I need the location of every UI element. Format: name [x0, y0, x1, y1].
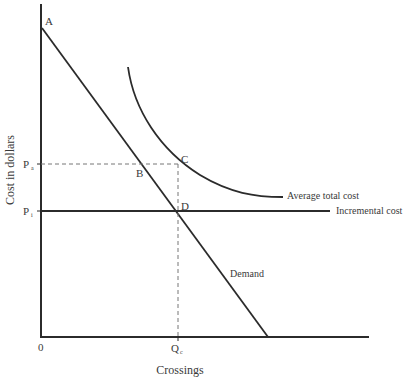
svg-text:P: P [23, 205, 29, 217]
svg-text:P: P [23, 158, 29, 170]
origin-label: 0 [38, 341, 44, 353]
price-a-label: P a [23, 158, 34, 171]
x-axis-label: Crossings [156, 363, 204, 377]
point-a-label: A [45, 15, 53, 27]
demand-line [42, 28, 268, 337]
cost-diagram: A B C D P a P i Q c 0 Average total cost… [0, 0, 416, 380]
incremental-cost-label: Incremental cost [336, 205, 403, 216]
svg-text:Q: Q [171, 342, 179, 354]
point-b-label: B [136, 167, 143, 179]
demand-label: Demand [230, 268, 264, 279]
point-c-label: C [181, 153, 188, 165]
svg-text:i: i [31, 212, 33, 218]
y-axis-label: Cost in dollars [3, 135, 17, 205]
average-total-cost-label: Average total cost [287, 190, 359, 201]
point-d-label: D [181, 200, 189, 212]
svg-text:c: c [180, 349, 183, 355]
svg-text:a: a [31, 165, 34, 171]
quantity-c-label: Q c [171, 342, 183, 355]
price-i-label: P i [23, 205, 33, 218]
